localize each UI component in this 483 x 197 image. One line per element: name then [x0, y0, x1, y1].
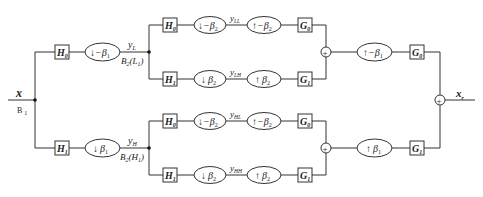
signal-label-yH: yH [127, 135, 137, 147]
output-label: xr [455, 87, 465, 101]
down-arrow-icon: ↓ [201, 74, 206, 85]
level2-row-HH: H1 ↓β2 yHH ↑β2 G1 [163, 163, 312, 184]
signal-label-yL: yL [127, 39, 136, 51]
space-label-B2-H1: B2(H1) [120, 152, 144, 163]
level2-row-LH: H1 ↓β2 yLH ↑β2 G1 [163, 67, 312, 88]
level2-row-HL: H0 ↓−β2 yHL ↑−β2 G0 [163, 109, 312, 130]
down-arrow-icon: ↓ [201, 170, 206, 181]
plus-icon: + [437, 96, 442, 106]
up-arrow-icon: ↑ [255, 170, 260, 181]
up-arrow-icon: ↑ [255, 74, 260, 85]
signal-label-yLH: yLH [229, 67, 242, 78]
level1-high-branch: H1 ↓β1 yH B2(H1) [55, 135, 144, 163]
junction-dot [147, 146, 151, 150]
plus-icon: + [323, 144, 328, 154]
space-label-B2-L1: B2(L1) [121, 56, 144, 67]
filter-bank-diagram: x B1 xr H0 ↓−β1 yL B2(L1) H1 ↓β1 yH B2(H… [0, 0, 483, 197]
plus-icon: + [323, 48, 328, 58]
up-arrow-icon: ↑ [366, 143, 371, 154]
row-wires [149, 25, 326, 175]
final-sum-node: + [435, 95, 445, 106]
input-space-label: B1 [17, 106, 27, 116]
signal-label-yLL: yLL [229, 13, 240, 24]
junction-dot [33, 98, 37, 102]
signal-label-yHH: yHH [229, 163, 243, 174]
wires [8, 25, 475, 175]
level2-row-LL: H0 ↓−β2 yLL ↑−β2 G0 [163, 13, 312, 34]
input-label: x [15, 86, 22, 100]
down-arrow-icon: ↓ [93, 143, 98, 154]
level1-low-branch: H0 ↓−β1 yL B2(L1) [55, 39, 144, 67]
junction-dot [147, 50, 151, 54]
signal-label-yHL: yHL [229, 109, 241, 120]
